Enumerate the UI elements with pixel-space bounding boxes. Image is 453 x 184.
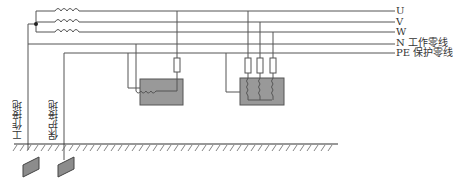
coil-u-icon — [55, 9, 82, 12]
coil-w-icon — [55, 30, 82, 33]
protective-earth-electrode — [58, 157, 74, 177]
label-u: U — [396, 6, 404, 16]
line-n — [28, 24, 395, 150]
fuse-icon — [270, 58, 276, 73]
label-pe: PE 保护零线 — [396, 48, 453, 58]
coil-v-icon — [55, 20, 82, 23]
fuse-icon — [174, 58, 180, 72]
working-earth-electrode — [23, 157, 39, 177]
label-working-earth: 工作接地 — [13, 100, 23, 140]
fuse-icon — [245, 58, 251, 73]
fuse-icon — [257, 58, 263, 73]
label-protective-earth: 保护接地 — [49, 100, 59, 140]
ground-hatch — [13, 145, 332, 151]
label-w: W — [396, 27, 406, 37]
